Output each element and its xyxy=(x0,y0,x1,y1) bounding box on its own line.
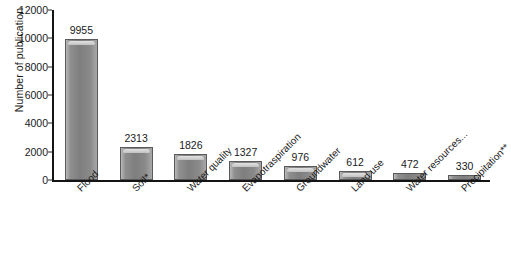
bar-value-label: 1327 xyxy=(234,146,257,158)
bar-top-highlight xyxy=(232,163,259,167)
y-tick-label: 8000 xyxy=(6,61,48,73)
bar-group[interactable]: 9955 xyxy=(65,39,98,180)
bar-top-highlight xyxy=(123,149,150,153)
bar-value-label: 9955 xyxy=(70,24,93,36)
bar-value-label: 1826 xyxy=(179,139,202,151)
y-axis-tick-labels: 020004000600080001000012000 xyxy=(0,0,48,253)
y-tick-label: 4000 xyxy=(6,117,48,129)
bar-value-label: 976 xyxy=(292,151,310,163)
y-tick-label: 2000 xyxy=(6,146,48,158)
y-tick-label: 0 xyxy=(6,174,48,186)
bar-value-label: 330 xyxy=(456,160,474,172)
y-tick-label: 10000 xyxy=(6,32,48,44)
bar-top-highlight xyxy=(177,156,204,160)
bar-value-label: 612 xyxy=(346,156,364,168)
y-tick-label: 6000 xyxy=(6,89,48,101)
y-tick-label: 12000 xyxy=(6,4,48,16)
x-axis-category-labels: FloodSoil*Water qualityEvapotraspiration… xyxy=(52,182,490,253)
bar-value-label: 2313 xyxy=(124,132,147,144)
bar-top-highlight xyxy=(68,41,95,45)
bar[interactable] xyxy=(65,39,98,180)
bar-value-label: 472 xyxy=(401,158,419,170)
